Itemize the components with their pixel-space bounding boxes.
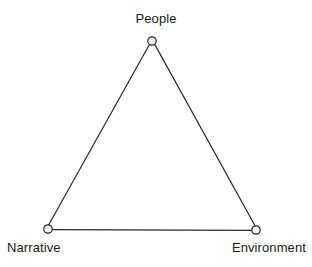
node-label-environment: Environment <box>0 240 306 255</box>
edge-narrative-environment <box>53 230 253 231</box>
node-environment[interactable] <box>252 226 260 234</box>
node-label-people: People <box>0 11 312 26</box>
node-narrative[interactable] <box>44 225 52 233</box>
triangle-diagram <box>0 0 312 267</box>
node-people[interactable] <box>148 37 156 45</box>
